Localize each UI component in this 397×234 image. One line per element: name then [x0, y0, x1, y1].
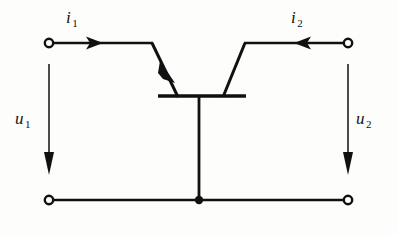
circuit-schematic — [0, 0, 397, 234]
label-u2-subscript: 2 — [365, 118, 372, 130]
terminal-top-right — [344, 39, 352, 47]
label-i2-subscript: 2 — [296, 17, 303, 29]
transistor-collector-lead — [223, 43, 245, 97]
label-current-i1: i1 — [66, 9, 78, 29]
emitter-arrowhead-icon — [158, 61, 175, 83]
label-u1-variable: u — [15, 109, 24, 128]
voltage-arrow-u1-head — [44, 152, 54, 175]
label-u2-variable: u — [356, 109, 365, 128]
terminal-bottom-right — [344, 196, 352, 204]
label-i1-subscript: 1 — [71, 17, 78, 29]
label-voltage-u1: u1 — [15, 110, 31, 130]
voltage-arrow-u2-head — [343, 152, 353, 175]
junction-node — [195, 196, 203, 204]
circuit-diagram-figure: i1 i2 u1 u2 — [0, 0, 397, 234]
terminal-bottom-left — [45, 196, 53, 204]
label-u1-subscript: 1 — [24, 118, 31, 130]
label-voltage-u2: u2 — [356, 110, 372, 130]
terminal-top-left — [45, 39, 53, 47]
label-current-i2: i2 — [291, 9, 303, 29]
